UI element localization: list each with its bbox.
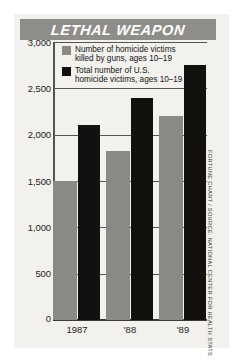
legend-swatch-gray-icon <box>62 46 71 55</box>
legend-item-total: Total number of U.S. homicide victims, a… <box>62 66 202 85</box>
page-title: LETHAL WEAPON <box>50 22 186 38</box>
legend-label-total-line1: Total number of U.S. <box>75 66 150 75</box>
y-tick-label-1000: 1,000 <box>5 222 51 233</box>
y-tick-label-2500: 2,500 <box>5 83 51 94</box>
chart-figure: LETHAL WEAPON 3,000 2,500 2,000 1,500 1,… <box>0 0 242 362</box>
bar-1988-guns <box>106 151 130 320</box>
bar-1989-guns <box>159 116 183 320</box>
bar-1987-total <box>78 125 100 320</box>
legend-label-total: Total number of U.S. homicide victims, a… <box>75 66 182 85</box>
legend-item-guns: Number of homicide victims killed by gun… <box>62 45 202 64</box>
x-tick-label-1989: '89 <box>159 324 207 335</box>
legend-label-guns-line1: Number of homicide victims <box>75 45 176 54</box>
legend-label-guns: Number of homicide victims killed by gun… <box>75 45 176 64</box>
y-tick-label-0: 0 <box>5 313 51 324</box>
bar-1987-guns <box>53 181 77 320</box>
chart-legend: Number of homicide victims killed by gun… <box>62 45 202 87</box>
x-tick-label-1988: '88 <box>106 324 154 335</box>
y-tick-label-500: 500 <box>5 268 51 279</box>
y-tick-label-2000: 2,000 <box>5 129 51 140</box>
y-tick-label-1500: 1,500 <box>5 176 51 187</box>
legend-label-total-line2: homicide victims, ages 10–19 <box>75 75 182 84</box>
gridline-3000 <box>53 42 207 43</box>
x-tick-label-1987: 1987 <box>53 324 101 335</box>
legend-label-guns-line2: killed by guns, ages 10–19 <box>75 54 172 63</box>
source-credit: FORTUNE CHART / SOURCE: NATIONAL CENTER … <box>207 150 213 300</box>
legend-swatch-black-icon <box>62 67 71 76</box>
bar-1988-total <box>131 98 153 320</box>
bar-1989-total <box>184 65 206 320</box>
y-tick-label-3000: 3,000 <box>5 37 51 48</box>
